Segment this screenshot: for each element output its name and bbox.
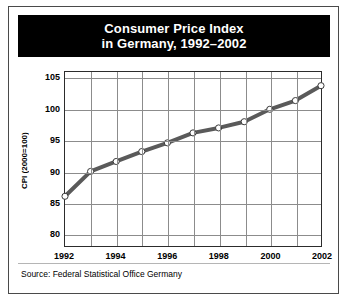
data-point-marker — [62, 193, 68, 199]
gridline-horizontal — [65, 78, 321, 79]
y-axis-tick-label: 90 — [34, 167, 60, 177]
x-axis-tick-label: 1992 — [44, 251, 84, 261]
y-axis-tick-label: 95 — [34, 135, 60, 145]
gridline-vertical — [142, 72, 143, 246]
gridline-vertical — [297, 72, 298, 246]
gridline-vertical — [91, 72, 92, 246]
gridline-vertical — [168, 72, 169, 246]
source-note: Source: Federal Statistical Office Germa… — [21, 269, 182, 279]
data-point-marker — [190, 130, 196, 136]
chart-title-line-1: Consumer Price Index — [104, 21, 243, 36]
source-divider — [18, 263, 330, 264]
x-axis-tick-label: 1998 — [199, 251, 239, 261]
gridline-vertical — [220, 72, 221, 246]
y-axis-title: CPI (2000=100) — [17, 121, 31, 201]
y-axis-tick-label: 100 — [34, 104, 60, 114]
gridline-horizontal — [65, 204, 321, 205]
gridline-vertical — [194, 72, 195, 246]
gridline-vertical — [271, 72, 272, 246]
chart-figure: Consumer Price Index in Germany, 1992–20… — [8, 6, 339, 294]
data-point-marker — [318, 83, 324, 89]
cpi-line-series — [65, 72, 321, 246]
gridline-horizontal — [65, 173, 321, 174]
y-axis-tick-label: 85 — [34, 198, 60, 208]
chart-title-banner: Consumer Price Index in Germany, 1992–20… — [18, 15, 330, 57]
y-axis-tick-labels: 10510095908580 — [32, 63, 60, 259]
y-axis-tick-label: 80 — [34, 229, 60, 239]
x-axis-tick-label: 2002 — [302, 251, 342, 261]
plot-container: CPI (2000=100) 10510095908580 1992199419… — [18, 63, 330, 259]
x-axis-tick-label: 1994 — [96, 251, 136, 261]
plot-area — [64, 71, 322, 247]
y-axis-tick-label: 105 — [34, 72, 60, 82]
gridline-vertical — [117, 72, 118, 246]
x-axis-tick-label: 2000 — [250, 251, 290, 261]
gridline-horizontal — [65, 141, 321, 142]
gridline-vertical — [246, 72, 247, 246]
gridline-horizontal — [65, 235, 321, 236]
chart-title-line-2: in Germany, 1992–2002 — [102, 36, 247, 51]
gridline-horizontal — [65, 110, 321, 111]
x-axis-tick-label: 1996 — [147, 251, 187, 261]
